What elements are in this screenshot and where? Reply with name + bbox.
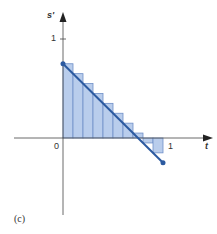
riemann-bar — [63, 64, 73, 138]
riemann-bars — [63, 64, 163, 153]
riemann-bar — [143, 138, 153, 143]
x-tick-label-1: 1 — [168, 141, 173, 151]
endpoint-dot — [161, 160, 166, 165]
figure-caption: (c) — [14, 213, 25, 224]
origin-label: 0 — [54, 141, 59, 151]
endpoint-dot — [61, 61, 66, 66]
riemann-sum-chart — [0, 0, 217, 234]
x-axis-label: t — [205, 141, 208, 151]
riemann-bar — [93, 93, 103, 138]
riemann-bar — [153, 138, 163, 153]
y-tick-label-1: 1 — [51, 33, 56, 43]
y-axis-label: s' — [47, 10, 54, 20]
